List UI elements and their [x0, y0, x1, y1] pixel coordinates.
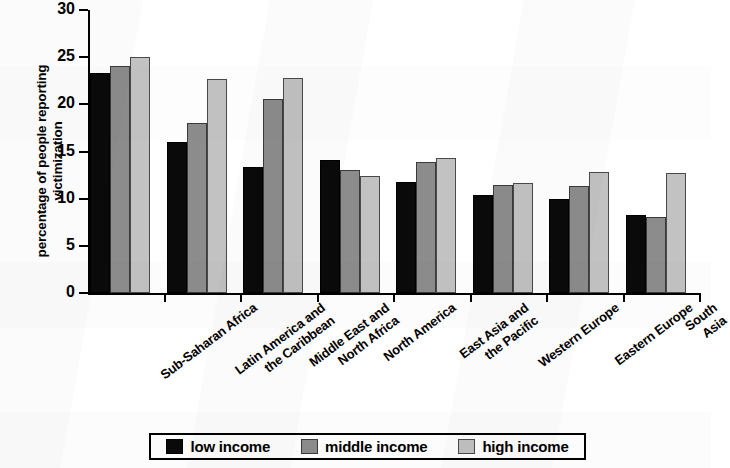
y-axis-tick-label: 5: [66, 235, 75, 255]
bar: [187, 123, 207, 293]
y-axis-tick-label: 10: [57, 188, 75, 208]
bar: [263, 99, 283, 293]
bar: [436, 158, 456, 293]
legend-label: middle income: [325, 438, 427, 455]
y-axis-tick-label: 30: [57, 0, 75, 19]
legend-item[interactable]: middle income: [301, 438, 427, 455]
bar: [626, 215, 646, 293]
bar: [473, 195, 493, 293]
y-axis-title-line-1: percentage of people reporting: [34, 11, 50, 311]
bar: [646, 217, 666, 293]
bar: [207, 79, 227, 293]
y-axis-tick-label: 20: [57, 93, 75, 113]
bar-group: [394, 10, 471, 293]
bar-group: [241, 10, 318, 293]
bar: [513, 183, 533, 293]
x-axis-category-label: East Asia and the Pacific: [456, 300, 541, 375]
bar: [569, 186, 589, 293]
legend: low incomemiddle incomehigh income: [149, 433, 586, 460]
bar-group: [318, 10, 395, 293]
bar-group: [471, 10, 548, 293]
x-axis-category-label: Eastern Europe: [612, 300, 696, 369]
y-axis-tick: 25: [79, 56, 88, 58]
bar: [320, 160, 340, 293]
bar: [416, 162, 436, 293]
bar: [110, 66, 130, 293]
y-axis-tick-label: 15: [57, 141, 75, 161]
y-axis-tick: 0: [79, 292, 88, 294]
legend-swatch-icon: [301, 439, 318, 454]
y-axis-tick: 20: [79, 103, 88, 105]
legend-swatch-icon: [458, 439, 475, 454]
y-axis-tick-label: 25: [57, 46, 75, 66]
legend-swatch-icon: [166, 439, 183, 454]
bar-group: [165, 10, 242, 293]
bar: [167, 142, 187, 293]
plot-area: 051015202530: [88, 10, 700, 293]
bar-group: [624, 10, 701, 293]
bar: [666, 173, 686, 293]
legend-item[interactable]: low income: [166, 438, 270, 455]
bar: [283, 78, 303, 293]
legend-label: low income: [190, 438, 270, 455]
y-axis-tick: 5: [79, 245, 88, 247]
bar-group: [547, 10, 624, 293]
bar: [549, 199, 569, 293]
bar: [130, 57, 150, 293]
bar: [243, 167, 263, 293]
bar: [396, 182, 416, 293]
bar: [589, 172, 609, 293]
bar-group: [88, 10, 165, 293]
bar: [493, 185, 513, 293]
bar: [340, 170, 360, 293]
y-axis-tick: 30: [79, 9, 88, 11]
x-axis-category-label: Western Europe: [536, 300, 623, 371]
x-axis-labels: Sub-Saharan AfricaLatin America and the …: [0, 296, 711, 416]
bar: [360, 176, 380, 293]
bar: [90, 73, 110, 293]
y-axis-tick: 10: [79, 198, 88, 200]
y-axis-tick: 15: [79, 151, 88, 153]
legend-item[interactable]: high income: [458, 438, 568, 455]
legend-label: high income: [482, 438, 568, 455]
